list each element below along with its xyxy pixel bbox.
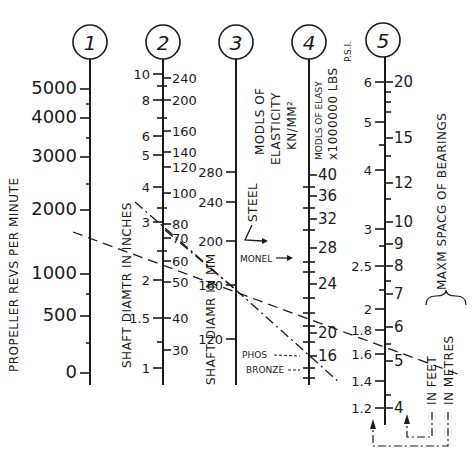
- scale-4-caption-line2: x1000000 LBS: [326, 67, 340, 160]
- scale-2-tick-label: 120: [172, 160, 197, 175]
- scale-3-tick-label: 280: [198, 165, 223, 180]
- scale-4-ticks: 40363228242016: [309, 166, 337, 365]
- scale-4-tick-label: 28: [318, 239, 337, 257]
- scale-5-caption: MAXM SPACG OF BEARINGS: [435, 113, 449, 290]
- scale-5-tick-label: 12: [394, 174, 413, 192]
- scale-1-caption: PROPELLER REVS PER MINUTE: [7, 177, 21, 372]
- scale-1-tick-label: 3000: [31, 145, 77, 166]
- scale-2-tick-label: 6: [142, 129, 150, 144]
- scale-3-number: 3: [230, 31, 243, 55]
- phos-arrow: [274, 355, 300, 356]
- scale-5-tick-label: 1.2: [351, 401, 372, 416]
- scale-5-ticks: 65432.521.81.61.41.220151210987654: [351, 73, 413, 417]
- scale-1-tick-label: 1000: [31, 262, 77, 283]
- scale-1-tick-label: 5000: [31, 77, 77, 98]
- scale-2-tick-label: 240: [172, 71, 197, 86]
- scale-2-tick-label: 50: [172, 275, 189, 290]
- scale-2-tick-label: 80: [172, 217, 189, 232]
- scale-2-tick-label: 200: [172, 93, 197, 108]
- scale-5-tick-label: 5: [364, 115, 372, 130]
- scale-4-tick-label: 36: [318, 187, 337, 205]
- steel-label: STEEL: [246, 183, 260, 222]
- scale-4-tick-label: 32: [318, 210, 337, 228]
- scale-2-tick-label: 5: [142, 148, 150, 163]
- feet-bracket: [407, 412, 432, 437]
- scale-5-tick-label: 5: [394, 352, 404, 370]
- scale-5-tick-label: 1.4: [351, 374, 372, 389]
- scale-4-number: 4: [303, 31, 316, 55]
- metres-arrow-icon: [370, 419, 376, 429]
- scale-1-tick-label: 500: [43, 304, 77, 325]
- scale-5-tick-label: 9: [394, 235, 404, 253]
- scale-3-caption-line2: ELASTICITY: [269, 92, 283, 165]
- scale-2-tick-label: 2: [142, 273, 150, 288]
- scale-3-caption-line3: KN/MM²: [285, 101, 299, 150]
- scale-2-tick-label: 4: [142, 180, 150, 195]
- scale-2-tick-label: 10: [133, 67, 150, 82]
- scale-1-number: 1: [84, 31, 97, 55]
- scale-3-tick-label: 200: [198, 234, 223, 249]
- scale-5-header: 5: [366, 23, 400, 57]
- scale-5-tick-label: 6: [394, 318, 404, 336]
- scale-5-tick-label: 7: [394, 285, 404, 303]
- scale-5-tick-label: 15: [394, 129, 413, 147]
- scale-2-header: 2: [146, 25, 180, 59]
- scale-1-ticks: 500040003000200010005000: [31, 77, 90, 382]
- scale-4-tick-label: 20: [318, 324, 337, 342]
- scale-2-number: 2: [157, 31, 170, 55]
- scale-2-tick-label: 40: [172, 311, 189, 326]
- scale-3-header: 3: [219, 25, 253, 59]
- scale-5-tick-label: 8: [394, 257, 404, 275]
- scale-2-tick-label: 3: [142, 215, 150, 230]
- scale-5-tick-label: 10: [394, 213, 413, 231]
- scale-4-caption-line3: P.S.I.: [343, 41, 353, 62]
- scale-2-tick-label: 60: [172, 254, 189, 269]
- scale-1-tick-label: 2000: [31, 198, 77, 219]
- scale-4-header: 4: [292, 25, 326, 59]
- feet-arrow-icon: [404, 414, 410, 424]
- bronze-label: BRONZE: [246, 365, 284, 375]
- scale-3-caption-line1: MODLS OF: [253, 87, 267, 155]
- scale-5-number: 5: [377, 29, 390, 53]
- scale-4-tick-label: 40: [318, 166, 337, 184]
- scale-5-tick-label: 3: [364, 222, 372, 237]
- scale-4-caption-line1: MODLS OF ELASY: [314, 81, 324, 160]
- scale-4-tick-label: 16: [318, 347, 337, 365]
- scale-3-tick-label: 240: [198, 195, 223, 210]
- scale-2-tick-label: 160: [172, 124, 197, 139]
- scale-5-tick-label: 2: [364, 302, 372, 317]
- nomogram-diagram: 1 2 3 4 5 500040003000200010005000 10865…: [0, 0, 473, 463]
- scale-2-tick-label: 8: [142, 93, 150, 108]
- scale-5-tick-label: 2.5: [351, 259, 372, 274]
- scale-1-tick-label: 4000: [31, 106, 77, 127]
- scale-5-brace: [426, 290, 466, 305]
- scale-1-header: 1: [73, 25, 107, 59]
- scale-5-tick-label: 1.8: [351, 323, 372, 338]
- material-steel: STEEL: [245, 183, 268, 244]
- phos-label: PHOS: [242, 350, 267, 360]
- scale-2-tick-label: 1: [142, 361, 150, 376]
- scale-1-tick-label: 0: [66, 361, 77, 382]
- scale-5-tick-label: 1.6: [351, 347, 372, 362]
- scale-5-tick-label: 20: [394, 73, 413, 91]
- scale-2-tick-label: 140: [172, 145, 197, 160]
- scale-2-tick-label: 100: [172, 186, 197, 201]
- monel-label: MONEL: [240, 254, 272, 264]
- scale-5-tick-label: 6: [364, 75, 372, 90]
- scale-2-tick-label: 30: [172, 343, 189, 358]
- scale-5-tick-label: 4: [364, 163, 372, 178]
- scale-4-tick-label: 24: [318, 275, 337, 293]
- scale-5-tick-label: 4: [394, 399, 404, 417]
- scale-2-caption-inches: SHAFT DIAMTR IN INCHES: [120, 202, 134, 368]
